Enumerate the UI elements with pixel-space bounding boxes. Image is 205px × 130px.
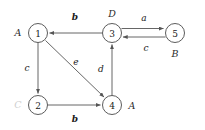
node-label-4: 4 — [109, 101, 115, 111]
node-tag-5: B — [171, 48, 179, 59]
directed-graph-figure: b a c c e d b 1 A — [0, 0, 205, 130]
node-1[interactable]: 1 A — [14, 24, 48, 43]
edge-label-3-1: b — [72, 12, 78, 22]
edge-5-to-3: c — [123, 37, 166, 53]
node-tag-1: A — [14, 27, 22, 38]
edge-label-2-4: b — [72, 114, 78, 124]
edge-1-to-2: c — [24, 43, 38, 94]
graph-canvas: b a c c e d b 1 A — [0, 0, 205, 130]
node-label-5: 5 — [172, 29, 178, 39]
node-3[interactable]: 3 D — [103, 8, 122, 43]
edge-label-5-3: c — [143, 43, 148, 53]
edge-1-to-4: e — [46, 41, 105, 98]
node-tag-4: A — [128, 100, 136, 111]
edge-label-1-4: e — [73, 57, 78, 67]
edge-label-3-5: a — [141, 13, 146, 23]
edge-line-1-4 — [46, 41, 105, 98]
node-label-3: 3 — [109, 29, 115, 39]
node-5[interactable]: 5 B — [166, 24, 185, 59]
edge-label-1-2: c — [24, 63, 29, 73]
node-label-1: 1 — [35, 29, 41, 39]
edge-2-to-4: b — [48, 105, 101, 124]
node-4[interactable]: 4 A — [103, 96, 136, 115]
edge-3-to-5: a — [122, 13, 164, 29]
node-2[interactable]: 2 C — [14, 96, 47, 115]
node-tag-3: D — [107, 8, 116, 19]
node-label-2: 2 — [35, 101, 41, 111]
edge-label-4-3: d — [98, 64, 104, 74]
node-tag-2: C — [14, 99, 22, 110]
edge-4-to-3: d — [98, 45, 112, 96]
edge-3-to-1: b — [50, 12, 103, 33]
